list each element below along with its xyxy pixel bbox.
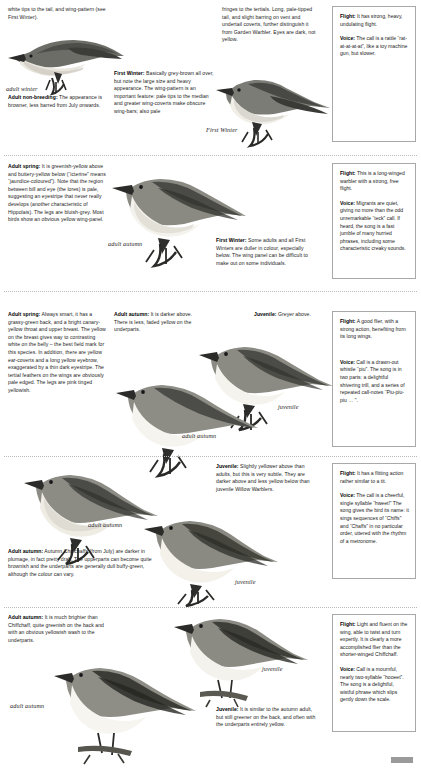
- bird-illustration-juvenile-chiffchaff: [140, 508, 280, 608]
- first-winter-icterine-label: First Winter:: [216, 237, 247, 243]
- intro-continuation-text: white tips to the tail, and wing-pattern…: [8, 6, 108, 21]
- flight-paragraph: Flight: It has strong, heavy, undulating…: [340, 13, 409, 28]
- voice-label: Voice:: [340, 492, 355, 498]
- caption-adult-autumn-wood: adult autumn: [182, 432, 216, 439]
- voice-label: Voice:: [340, 35, 355, 41]
- voice-label: Voice:: [340, 359, 355, 365]
- adult-autumn-wood-label: Adult autumn:: [114, 311, 149, 317]
- voice-paragraph: Voice: Call is a drawn-out whistle “piu”…: [340, 359, 409, 405]
- section-divider-3: [4, 456, 417, 457]
- adult-non-breeding-label: Adult non-breeding:: [8, 94, 58, 100]
- field-guide-page: white tips to the tail, and wing-pattern…: [0, 0, 421, 771]
- adult-non-breeding-text: Adult non-breeding: The appearance is br…: [8, 94, 106, 109]
- juvenile-wood-label: Juvenile:: [254, 311, 277, 317]
- infobox-icterine-warbler: Flight: This is a long-winged warbler wi…: [332, 163, 416, 279]
- juvenile-wood-text: Juvenile: Greyer above.: [254, 311, 318, 319]
- voice-paragraph: Voice: The call is a rattle “rat-at-at-a…: [340, 35, 409, 58]
- juvenile-willow-label: Juvenile:: [216, 706, 239, 712]
- first-winter-label: First Winter:: [114, 70, 145, 76]
- flight-paragraph: Flight: A good flier, with a strong acti…: [340, 318, 409, 341]
- infobox-wood-warbler: Flight: A good flier, with a strong acti…: [332, 311, 416, 447]
- adult-spring-wood-label: Adult spring:: [8, 311, 40, 317]
- first-winter-icterine-text: First Winter: Some adults and all First …: [216, 237, 316, 267]
- voice-paragraph: Voice: Migrants are quiet, giving no mor…: [340, 200, 409, 253]
- section-divider-2: [4, 291, 417, 292]
- bird-illustration-first-winter: [210, 66, 332, 152]
- caption-first-winter: First Winter: [206, 126, 238, 133]
- juvenile-chiffchaff-text: Juvenile: Slightly yellower above than a…: [216, 463, 316, 493]
- adult-autumn-willow-text: Adult autumn: It is much brighter than C…: [8, 614, 104, 644]
- caption-juvenile-wood: juvenile: [278, 403, 299, 410]
- adult-autumn-wood-text: Adult autumn: It is darker above. There …: [114, 311, 200, 334]
- juvenile-chiffchaff-label: Juvenile:: [216, 463, 239, 469]
- caption-adult-winter: adult winter: [6, 85, 38, 92]
- caption-adult-autumn-chiffchaff: adult autumn: [88, 521, 122, 528]
- infobox-willow-warbler: Flight: Light and fluent on the wing, ab…: [332, 614, 416, 732]
- caption-adult-autumn-icterine: adult autumn: [108, 240, 142, 247]
- tertial-fringes-text: fringes to the tertials. Long, pale-tipp…: [222, 6, 318, 44]
- section-divider-1: [4, 155, 417, 156]
- adult-spring-label: Adult spring:: [8, 163, 40, 169]
- juvenile-willow-text: Juvenile: It is similar to the autumn ad…: [216, 706, 316, 729]
- page-edge-tab: [391, 757, 413, 763]
- flight-label: Flight:: [340, 470, 356, 476]
- flight-label: Flight:: [340, 318, 356, 324]
- flight-label: Flight:: [340, 170, 356, 176]
- adult-autumn-chiffchaff-text: Adult autumn: Autumn Chiffchaffs (from J…: [8, 548, 154, 578]
- caption-adult-autumn-willow: adult autumn: [10, 702, 44, 709]
- adult-autumn-willow-label: Adult autumn:: [8, 614, 43, 620]
- voice-label: Voice:: [340, 666, 355, 672]
- flight-label: Flight:: [340, 13, 356, 19]
- caption-juvenile-chiffchaff: juvenile: [235, 578, 256, 585]
- flight-paragraph: Flight: This is a long-winged warbler wi…: [340, 170, 409, 193]
- adult-spring-wood-text: Adult spring: Always smart, it has a gra…: [8, 311, 108, 395]
- infobox-chiffchaff: Flight: It has a flitting action rather …: [332, 463, 416, 579]
- voice-label: Voice:: [340, 200, 355, 206]
- first-winter-text: First Winter: Basically grey-brown all o…: [114, 70, 214, 116]
- voice-paragraph: Voice: The call is a cheerful, single sy…: [340, 492, 409, 545]
- adult-spring-icterine-text: Adult spring: It is greenish-yellow abov…: [8, 163, 108, 224]
- infobox-barred-warbler: Flight: It has strong, heavy, undulating…: [332, 6, 416, 142]
- caption-juvenile-willow: juvenile: [262, 665, 283, 672]
- flight-paragraph: Flight: Light and fluent on the wing, ab…: [340, 621, 409, 659]
- voice-paragraph: Voice: Call is a mournful, nearly two-sy…: [340, 666, 409, 704]
- flight-paragraph: Flight: It has a flitting action rather …: [340, 470, 409, 485]
- flight-label: Flight:: [340, 621, 356, 627]
- bird-illustration-adult-autumn-willow: [48, 655, 198, 767]
- adult-autumn-chiffchaff-label: Adult autumn:: [8, 548, 43, 554]
